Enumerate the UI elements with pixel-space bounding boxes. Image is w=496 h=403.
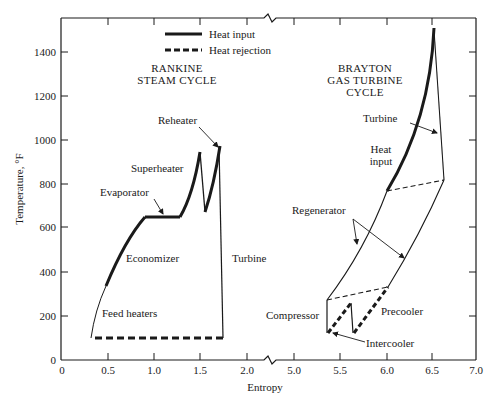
x-axis-break [61,356,476,364]
x-tick-label: 6.0 [380,364,394,376]
label-compressor: Compressor [266,309,320,321]
x-tick-labels: 0 0.5 1.0 1.5 2.0 5.0 5.5 6.0 6.5 7.0 [59,364,483,376]
x-tick-label: 0 [59,364,65,376]
x-tick-label: 7.0 [469,364,483,376]
label-reheater: Reheater [158,114,197,126]
x-tick-label: 0.5 [101,364,115,376]
x-tick-label: 6.5 [425,364,439,376]
rankine-title: RANKINE [151,62,203,74]
arrow-regenerator-2 [353,219,404,258]
y-tick-label: 600 [40,221,57,233]
x-axis-title: Entropy [247,381,283,393]
brayton-heat-input-curve [387,28,434,191]
brayton-regenerator-dash-top [387,180,444,191]
arrow-evaporator [154,199,163,214]
ts-diagram: 0 200 400 600 800 1000 1200 1400 0 0.5 1… [0,0,496,403]
y-ticks [61,52,476,316]
brayton-turbine-line [434,30,444,180]
brayton-title: CYCLE [346,86,384,98]
label-superheater: Superheater [131,162,184,174]
y-tick-label: 1200 [34,90,57,102]
brayton-low-compressor-line [351,303,353,333]
label-intercooler: Intercooler [366,337,415,349]
x-tick-label: 1.5 [193,364,207,376]
rankine-hp-turbine-line [200,152,205,212]
x-tick-label: 2.0 [240,364,254,376]
legend: Heat input Heat rejection [165,28,271,56]
y-tick-labels: 0 200 400 600 800 1000 1200 1400 [34,46,57,366]
label-evaporator: Evaporator [100,186,149,198]
x-tick-label: 1.0 [147,364,161,376]
y-tick-label: 400 [40,266,57,278]
y-tick-label: 800 [40,178,57,190]
top-axis-break [61,14,476,22]
label-brayton-turbine: Turbine [363,112,398,124]
label-heat-input: Heat [371,143,392,155]
brayton-title: BRAYTON [338,62,392,74]
brayton-regenerator-hot-side [388,180,444,287]
rankine-turbine-line [219,146,223,338]
x-tick-label: 5.5 [333,364,347,376]
legend-heat-input: Heat input [209,28,255,40]
label-economizer: Economizer [126,252,179,264]
y-tick-label: 200 [40,310,57,322]
arrow-intercooler [333,333,365,342]
brayton-title: GAS TURBINE [327,74,403,86]
y-tick-label: 0 [51,354,57,366]
y-tick-label: 1400 [34,46,57,58]
rankine-reheater-curve [205,146,220,212]
brayton-intercooler-line-1 [328,303,351,333]
label-regenerator: Regenerator [292,204,346,216]
arrow-reheater [199,127,218,147]
x-tick-label: 5.0 [287,364,301,376]
label-heat-input: input [370,155,393,167]
rankine-title: STEAM CYCLE [137,74,216,86]
label-rankine-turbine: Turbine [232,252,267,264]
arrow-regenerator-1 [353,219,357,244]
legend-heat-rejection: Heat rejection [209,44,271,56]
label-feed-heaters: Feed heaters [102,307,157,319]
y-axis-title: Temperature, °F [13,153,25,224]
label-precooler: Precooler [381,305,423,317]
y-tick-label: 1000 [34,134,57,146]
